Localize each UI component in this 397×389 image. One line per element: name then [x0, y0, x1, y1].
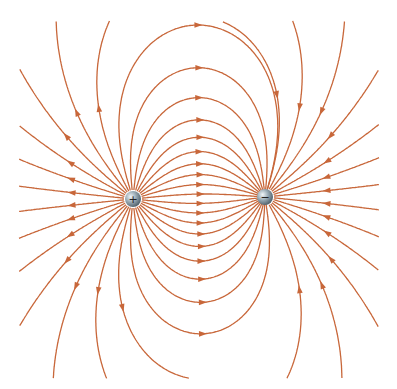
arrow-icon [194, 22, 202, 28]
arrow-icon [297, 285, 303, 293]
arrow-icon [322, 215, 330, 220]
arrow-icon [196, 172, 204, 178]
arrow-icon [197, 201, 205, 207]
arrow-icon [198, 276, 206, 282]
arrow-icon [320, 281, 326, 289]
arrow-icon [198, 244, 206, 250]
arrow-icon [74, 282, 80, 290]
field-lines-canvas: +− [0, 0, 397, 389]
arrow-icon [196, 210, 204, 216]
arrow-icon [197, 191, 205, 197]
arrow-icon [196, 161, 204, 167]
arrow-icon [323, 187, 331, 193]
arrow-icon [195, 149, 203, 155]
field-line [19, 203, 125, 271]
arrow-icon [197, 231, 205, 237]
arrow-icon [67, 178, 75, 183]
arrow-icon [199, 331, 207, 337]
arrow-icon [196, 117, 204, 123]
field-line [273, 201, 378, 270]
arrow-icon [119, 303, 124, 311]
field-line [140, 164, 260, 194]
field-line [269, 205, 301, 378]
charge-sign-label: + [128, 193, 137, 206]
arrow-icon [199, 300, 207, 306]
arrow-icon [196, 182, 204, 188]
field-line [131, 68, 268, 191]
field-line [223, 22, 279, 189]
field-line [134, 98, 264, 191]
arrow-icon [297, 103, 303, 111]
arrow-icon [68, 202, 76, 208]
field-line [272, 203, 378, 327]
arrow-icon [97, 104, 103, 112]
arrow-icon [67, 160, 75, 167]
arrow-icon [197, 220, 205, 226]
field-line [20, 69, 126, 193]
arrow-icon [324, 157, 332, 164]
arrow-icon [67, 215, 75, 220]
arrow-icon [96, 287, 102, 295]
charge-sign-label: − [260, 191, 269, 204]
arrow-icon [320, 107, 326, 115]
arrow-icon [196, 135, 204, 141]
arrow-icon [67, 231, 75, 238]
field-line [273, 125, 379, 193]
arrow-icon [197, 258, 205, 264]
field-line [20, 205, 126, 326]
positive-charge: + [125, 191, 141, 207]
arrow-icon [322, 201, 330, 207]
field-line [20, 126, 125, 195]
arrow-icon [195, 65, 203, 71]
dipole-diagram: +− [0, 0, 397, 389]
field-lines [19, 21, 379, 379]
negative-charge: − [257, 189, 273, 205]
arrow-icon [68, 190, 76, 196]
arrow-icon [322, 173, 330, 178]
arrow-icon [323, 231, 331, 238]
arrow-icon [195, 95, 203, 101]
arrow-icon [75, 109, 81, 117]
field-line [134, 204, 265, 303]
field-line [272, 70, 378, 191]
